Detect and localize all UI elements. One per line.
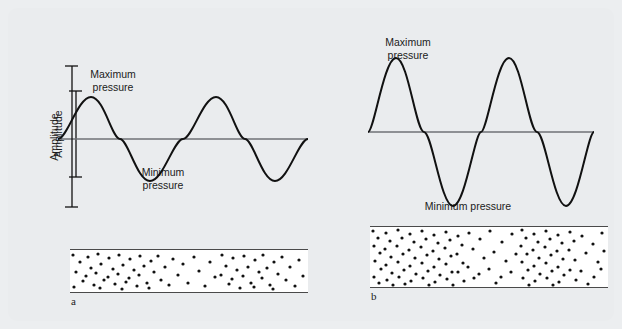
panel-letter-b: b — [371, 290, 377, 302]
figure-panel: Maximum pressure Minimum pressure Amplit… — [8, 8, 614, 321]
waveform-b — [368, 56, 594, 208]
amplitude-label-b: Amplitude — [48, 113, 60, 161]
panel-b: Maximum pressure Minimum pressure Amplit… — [8, 8, 614, 321]
maximum-pressure-line1-b: Maximum — [363, 36, 453, 49]
particle-box-b — [370, 226, 608, 288]
particle-field-b — [370, 227, 608, 287]
waveform-svg-b — [368, 56, 594, 208]
amplitude-bracket-b: Amplitude — [56, 65, 78, 208]
